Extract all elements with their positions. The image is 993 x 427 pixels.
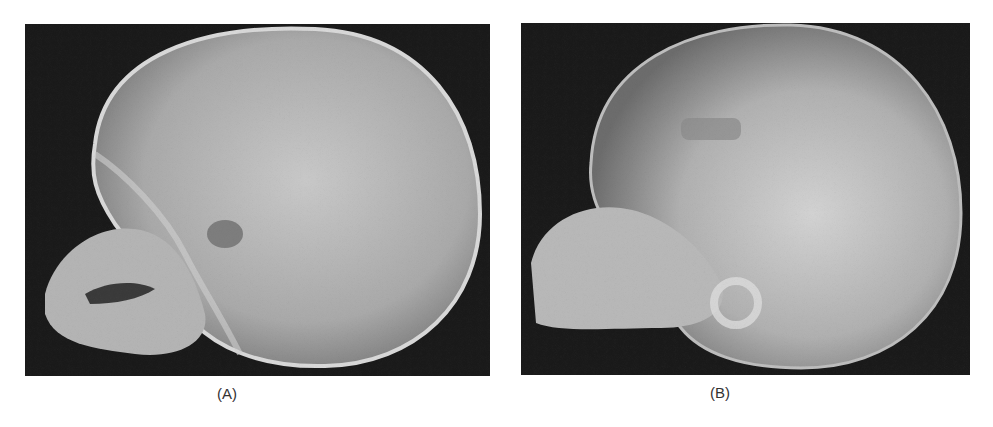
radiograph-panel-a [25,24,490,376]
skull-xray-a [25,24,490,376]
panel-b-label: (B) [690,384,750,401]
skull-xray-b [521,23,970,375]
radiograph-panel-b [521,23,970,375]
panel-a-label: (A) [197,385,257,402]
